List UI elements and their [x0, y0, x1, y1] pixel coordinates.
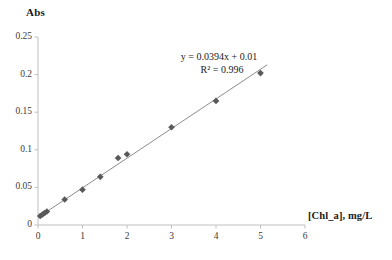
y-tick-label: 0.05	[2, 181, 32, 191]
x-tick-label: 2	[117, 231, 137, 241]
x-axis-title: [Chl_a], mg/L	[308, 210, 372, 221]
y-tick-label: 0.15	[2, 106, 32, 116]
data-point-marker	[168, 124, 175, 131]
trendline	[38, 65, 267, 218]
y-tick-label: 0	[2, 219, 32, 229]
scatter-plot-canvas	[0, 0, 392, 260]
regression-equation: y = 0.0394x + 0.01	[158, 50, 280, 63]
trendline-annotation: y = 0.0394x + 0.01 R² = 0.996	[158, 50, 280, 76]
x-tick-label: 4	[206, 231, 226, 241]
data-point-marker	[213, 98, 220, 105]
y-tick-label: 0.1	[2, 144, 32, 154]
data-point-markers	[37, 70, 264, 219]
data-point-marker	[115, 155, 122, 162]
x-tick-label: 5	[251, 231, 271, 241]
x-tick-label: 3	[162, 231, 182, 241]
chart-container: Abs 00.050.10.150.20.25 0123456 y = 0.03…	[0, 0, 392, 260]
x-tick-label: 6	[295, 231, 315, 241]
y-tick-label: 0.2	[2, 69, 32, 79]
x-tick-label: 0	[28, 231, 48, 241]
y-tick-label: 0.25	[2, 31, 32, 41]
r-squared-label: R² = 0.996	[158, 63, 280, 76]
x-tick-label: 1	[73, 231, 93, 241]
data-point-marker	[79, 186, 86, 193]
